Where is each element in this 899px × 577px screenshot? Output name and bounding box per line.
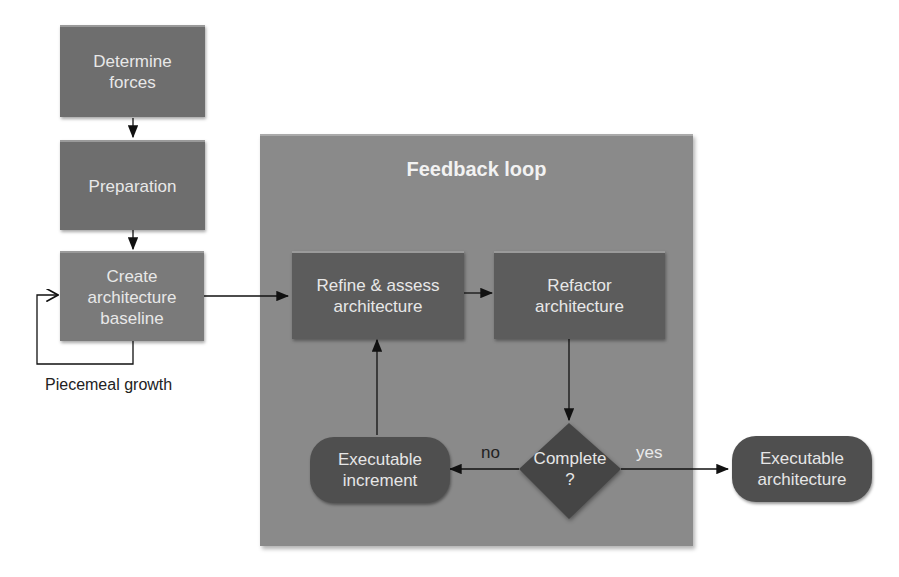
node-executable-increment: Executable increment xyxy=(310,437,450,503)
node-determine-forces: Determine forces xyxy=(60,25,205,117)
node-create-baseline: Create architecture baseline xyxy=(60,251,204,341)
node-refine-assess: Refine & assess architecture xyxy=(292,251,464,339)
node-refactor: Refactor architecture xyxy=(494,251,665,339)
label-yes: yes xyxy=(636,443,662,463)
node-executable-architecture: Executable architecture xyxy=(732,436,872,502)
label-piecemeal-growth: Piecemeal growth xyxy=(45,376,172,394)
node-complete: Complete ? xyxy=(519,448,621,490)
label-no: no xyxy=(481,443,500,463)
node-preparation: Preparation xyxy=(60,140,205,230)
